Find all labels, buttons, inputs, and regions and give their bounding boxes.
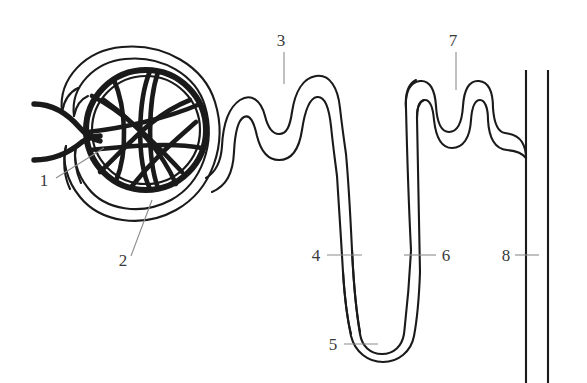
nephron-diagram: 1 2 3 4 5 6 7 8	[0, 0, 587, 383]
label-8: 8	[502, 246, 511, 265]
label-4: 4	[312, 246, 321, 265]
nephron-illustration: 1 2 3 4 5 6 7 8	[0, 0, 587, 383]
label-2: 2	[119, 251, 128, 270]
label-5: 5	[329, 335, 338, 354]
label-6: 6	[442, 246, 451, 265]
label-3: 3	[277, 31, 286, 50]
label-1: 1	[40, 171, 49, 190]
label-7: 7	[449, 31, 458, 50]
